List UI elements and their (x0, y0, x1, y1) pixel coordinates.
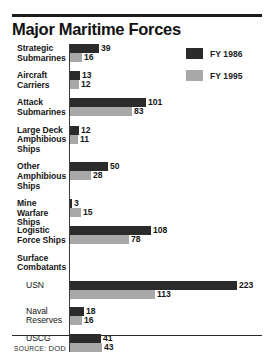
source-value: DOD (46, 344, 66, 353)
category-label-line: Carriers (17, 81, 69, 91)
bar-value-label: 223 (237, 280, 253, 290)
top-rule (12, 14, 262, 17)
bar-other-amphibious-ships-fy-1995 (70, 171, 91, 180)
bar-value-label: 28 (91, 170, 103, 180)
category-label-other-amphibious-ships: OtherAmphibiousShips (17, 162, 69, 191)
bar-attack-submarines-fy-1995 (70, 107, 132, 116)
category-label-aircraft-carriers: AircraftCarriers (17, 71, 69, 90)
bar-logistic-force-ships-fy-1995 (70, 235, 129, 244)
bar-value-label: 43 (102, 342, 114, 352)
bar-chart-plot: StrategicSubmarines3916AircraftCarriers1… (0, 44, 274, 360)
bottom-rule (12, 335, 262, 337)
bar-group-attack-submarines: AttackSubmarines10183 (0, 98, 274, 117)
bar-group-mine-warfare-ships: Mine WarfareShips315 (0, 199, 274, 218)
bar-value-label: 16 (82, 315, 94, 325)
bar-group-surface-combatants: SurfaceCombatants (0, 254, 274, 273)
bar-value-label: 50 (108, 161, 120, 171)
category-label-line: Ships (17, 182, 69, 192)
bar-value-label: 108 (151, 225, 167, 235)
bar-group-logistic-force-ships: LogisticForce Ships10878 (0, 226, 274, 245)
category-label-line: Ships (17, 145, 69, 155)
bar-value-label: 83 (132, 106, 144, 116)
category-label-line: Mine Warfare (17, 199, 69, 218)
page-title: Major Maritime Forces (12, 19, 181, 39)
bar-group-usn: USN223113 (0, 281, 274, 299)
bar-group-large-deck-amphibious-ships: Large DeckAmphibiousShips1211 (0, 126, 274, 155)
category-label-logistic-force-ships: LogisticForce Ships (17, 226, 69, 245)
category-label-surface-combatants: SurfaceCombatants (17, 254, 69, 273)
bar-naval-reserves-fy-1995 (70, 316, 82, 325)
bar-value-label: 39 (99, 43, 111, 53)
bar-uscg-fy-1995 (70, 343, 102, 352)
category-label-mine-warfare-ships: Mine WarfareShips (17, 199, 69, 228)
bar-strategic-submarines-fy-1995 (70, 53, 82, 62)
category-label-strategic-submarines: StrategicSubmarines (17, 44, 69, 63)
bar-value-label: 3 (72, 198, 79, 208)
category-label-line: Force Ships (17, 236, 69, 246)
bar-group-strategic-submarines: StrategicSubmarines3916 (0, 44, 274, 63)
bar-value-label: 78 (129, 234, 141, 244)
bar-value-label: 101 (146, 97, 162, 107)
chart-page: Major Maritime Forces FY 1986FY 1995 Str… (0, 0, 274, 362)
bar-group-other-amphibious-ships: OtherAmphibiousShips5028 (0, 162, 274, 191)
bar-usn-fy-1995 (70, 290, 155, 299)
source-prefix: SOURCE: (14, 345, 46, 352)
category-label-attack-submarines: AttackSubmarines (17, 98, 69, 117)
category-label-large-deck-amphibious-ships: Large DeckAmphibiousShips (17, 126, 69, 155)
bar-group-naval-reserves: NavalReserves1816 (0, 307, 274, 326)
source-note: SOURCE: DOD (14, 344, 66, 353)
bar-large-deck-amphibious-ships-fy-1995 (70, 135, 78, 144)
bar-value-label: 16 (82, 52, 94, 62)
category-label-line: Submarines (17, 54, 69, 64)
bar-aircraft-carriers-fy-1995 (70, 80, 79, 89)
bar-usn-fy-1986 (70, 281, 237, 290)
bar-value-label: 15 (81, 207, 93, 217)
bar-value-label: 11 (78, 134, 89, 144)
bar-value-label: 113 (155, 289, 171, 299)
bar-group-aircraft-carriers: AircraftCarriers1312 (0, 71, 274, 90)
bar-value-label: 12 (79, 79, 91, 89)
bar-mine-warfare-ships-fy-1995 (70, 208, 81, 217)
category-label-line: Submarines (17, 108, 69, 118)
category-label-line: Combatants (17, 263, 69, 273)
